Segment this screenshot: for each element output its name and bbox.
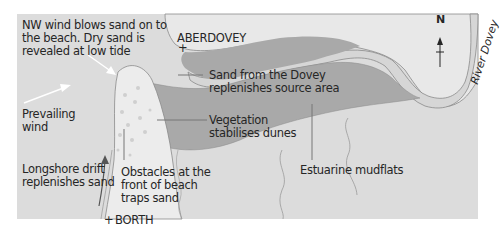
mudflats-label: Estuarine mudflats (300, 164, 403, 177)
vegetation-label: Vegetation stabilises dunes (209, 114, 296, 140)
aberdovey-marker: + (178, 41, 187, 55)
sand-from-dovey-label: Sand from the Dovey replenishes source a… (209, 69, 339, 95)
obstacles-label: Obstacles at the front of beach traps sa… (121, 166, 210, 205)
nw-wind-label: NW wind blows sand on to the beach. Dry … (22, 19, 167, 58)
prevailing-wind-label: Prevailing wind (22, 108, 75, 134)
borth-label: BORTH (115, 213, 154, 227)
longshore-drift-label: Longshore drift replenishes sand (22, 163, 114, 189)
north-label: N (436, 13, 445, 26)
borth-marker: + (104, 213, 113, 227)
